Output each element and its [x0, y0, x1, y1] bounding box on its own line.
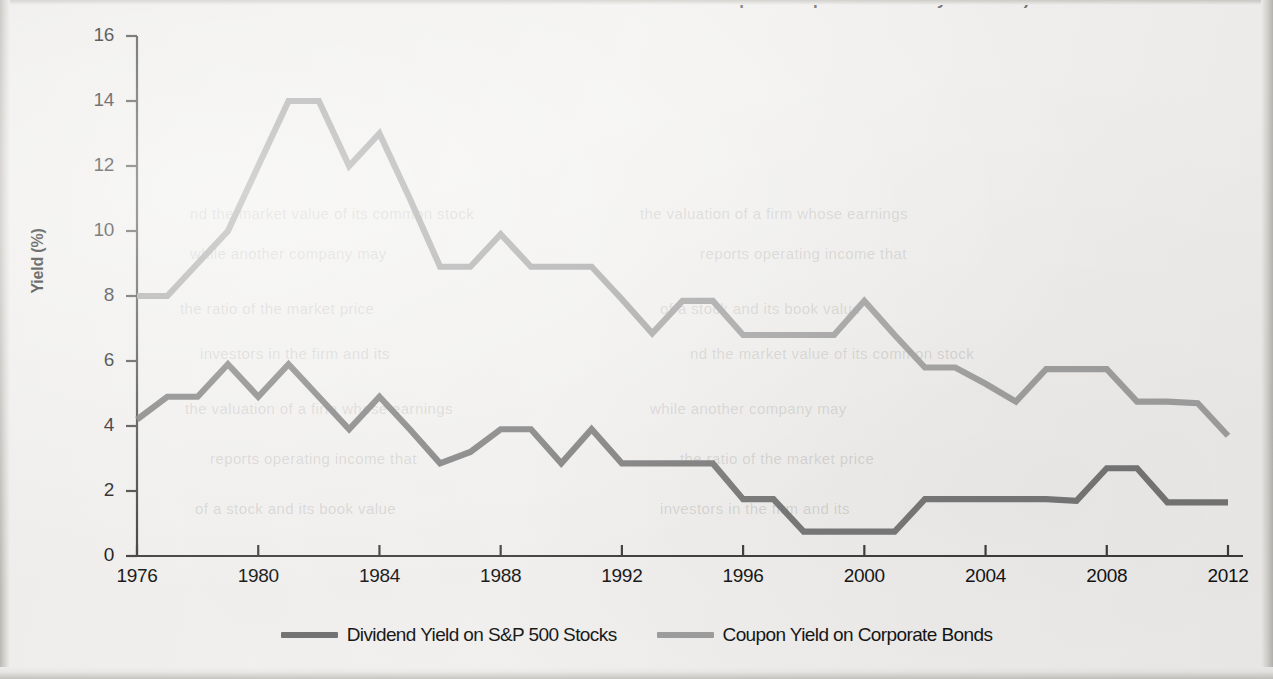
x-axis-tick-label: 2004	[946, 565, 1026, 587]
x-axis-tick-label: 2000	[824, 565, 904, 587]
x-axis-tick-label: 1996	[703, 565, 783, 587]
y-axis-tick-label: 4	[74, 414, 114, 436]
y-axis-tick-label: 2	[74, 479, 114, 501]
x-axis-tick-label: 2012	[1188, 565, 1268, 587]
series-line-1	[137, 101, 1228, 436]
chart-legend: Dividend Yield on S&P 500 StocksCoupon Y…	[0, 624, 1273, 646]
y-axis-title: Yield (%)	[29, 201, 47, 321]
y-axis-tick-label: 6	[74, 349, 114, 371]
x-axis-tick-label: 2008	[1067, 565, 1147, 587]
y-axis-tick-label: 14	[74, 89, 114, 111]
y-axis-tick-label: 12	[74, 154, 114, 176]
page-edge-bottom	[0, 667, 1273, 679]
x-axis-tick-label: 1992	[582, 565, 662, 587]
legend-entry: Dividend Yield on S&P 500 Stocks	[281, 624, 617, 646]
x-axis-tick-label: 1976	[97, 565, 177, 587]
page-edge-top	[0, 0, 1273, 5]
legend-label: Dividend Yield on S&P 500 Stocks	[347, 624, 617, 646]
legend-label: Coupon Yield on Corporate Bonds	[723, 624, 993, 646]
legend-color-swatch	[281, 632, 338, 638]
legend-color-swatch	[657, 632, 714, 638]
y-axis-tick-label: 8	[74, 284, 114, 306]
legend-entry: Coupon Yield on Corporate Bonds	[657, 624, 993, 646]
page-edge-right	[1261, 0, 1273, 679]
x-axis-tick-label: 1984	[339, 565, 419, 587]
page-edge-left	[0, 0, 10, 679]
x-axis-tick-label: 1980	[218, 565, 298, 587]
y-axis-tick-label: 0	[74, 544, 114, 566]
series-line-0	[137, 364, 1228, 531]
y-axis-tick-label: 10	[74, 219, 114, 241]
x-axis-tick-label: 1988	[461, 565, 541, 587]
scanned-page: ...and www.multpl.com/s-p-500-dividend-y…	[0, 0, 1273, 679]
y-axis-tick-label: 16	[74, 24, 114, 46]
